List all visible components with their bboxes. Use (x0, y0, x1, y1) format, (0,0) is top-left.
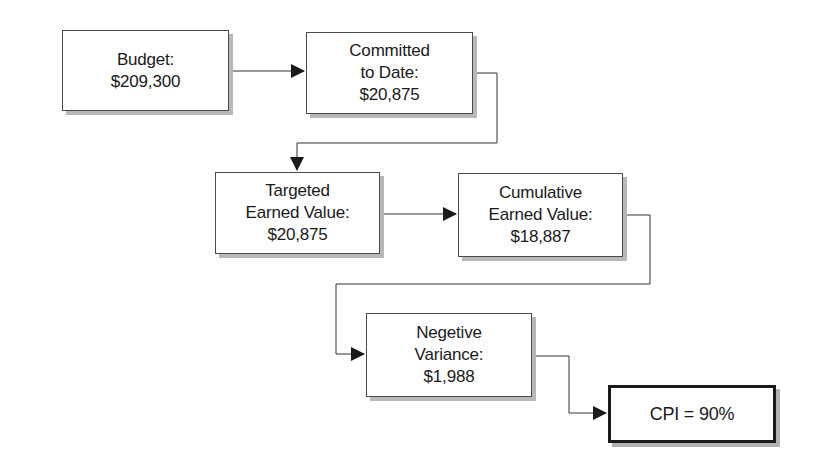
node-cumulative-line-2: Earned Value: (489, 204, 593, 226)
arrow-negative-to-cpi (532, 356, 606, 413)
node-targeted-earned-value: Targeted Earned Value: $20,875 (215, 172, 380, 254)
node-targeted-line-3: $20,875 (267, 224, 327, 246)
node-cumulative-line-3: $18,887 (510, 226, 570, 248)
node-targeted-line-2: Earned Value: (246, 202, 350, 224)
node-negative-line-3: $1,988 (424, 366, 475, 388)
node-committed-line-1: Committed (349, 40, 429, 62)
node-committed-line-3: $20,875 (359, 84, 419, 106)
node-negative-line-1: Negetive (416, 322, 482, 344)
node-negative-variance: Negetive Variance: $1,988 (366, 313, 532, 397)
node-committed-line-2: to Date: (361, 62, 419, 84)
node-cpi: CPI = 90% (608, 385, 776, 443)
node-negative-line-2: Variance: (415, 344, 484, 366)
node-targeted-line-1: Targeted (265, 180, 330, 202)
node-budget: Budget: $209,300 (62, 30, 229, 111)
node-cumulative-line-1: Cumulative (499, 182, 582, 204)
flow-diagram: Budget: $209,300 Committed to Date: $20,… (0, 0, 823, 468)
node-committed-to-date: Committed to Date: $20,875 (306, 32, 473, 114)
node-cpi-line-1: CPI = 90% (650, 403, 735, 425)
node-budget-line-1: Budget: (117, 49, 174, 71)
node-budget-line-2: $209,300 (111, 71, 180, 93)
node-cumulative-earned-value: Cumulative Earned Value: $18,887 (458, 173, 623, 257)
